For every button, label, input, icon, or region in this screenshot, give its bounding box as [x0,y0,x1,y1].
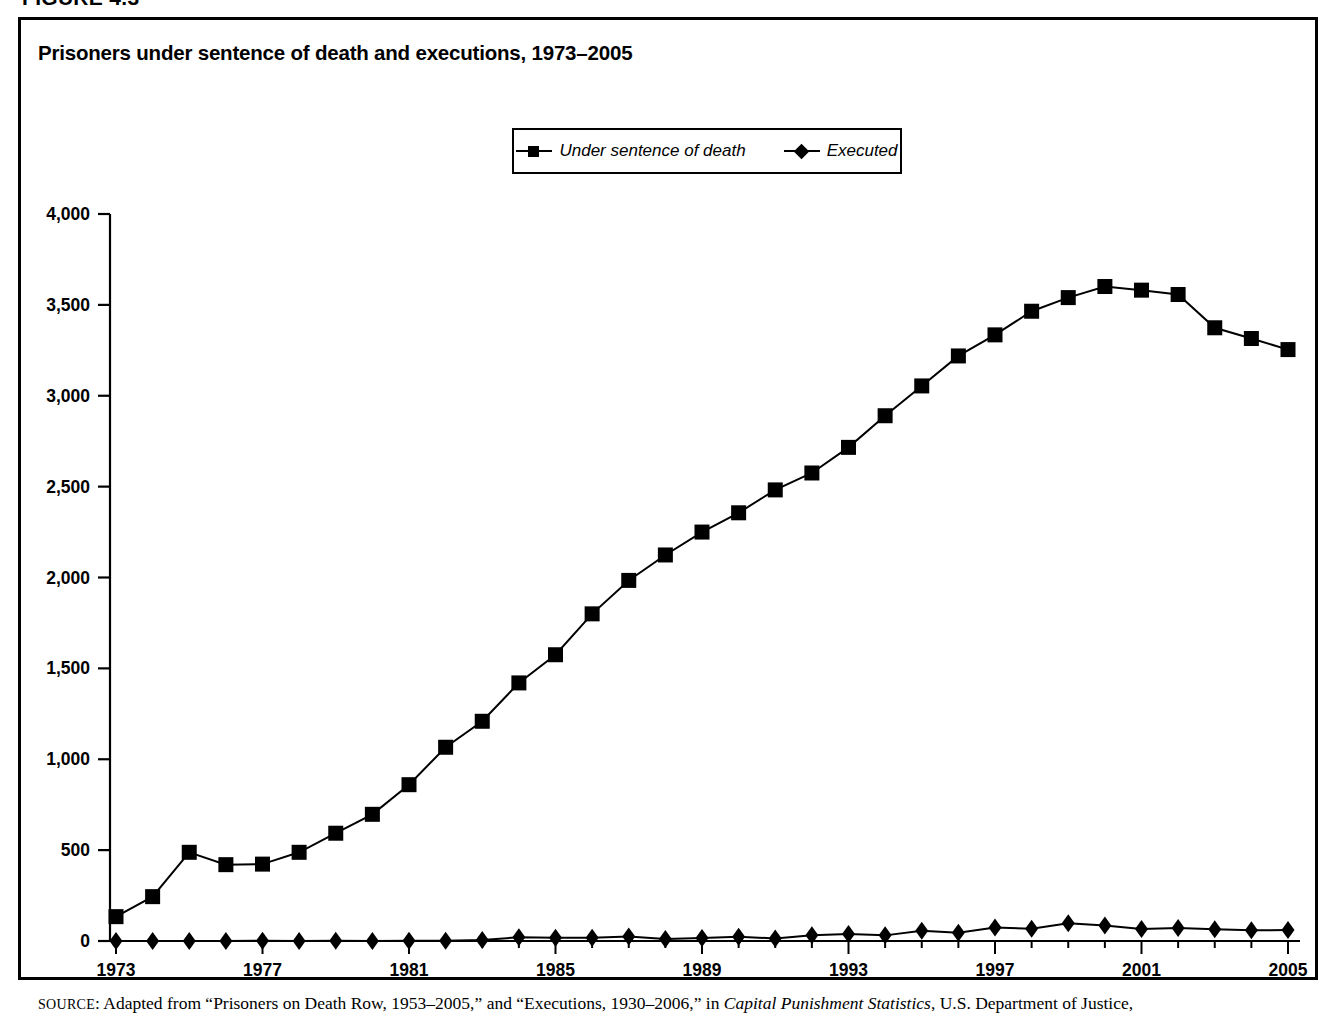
diamond-marker-icon [784,144,820,158]
chart-legend: Under sentence of death Executed [512,128,902,174]
y-axis-tick-label: 4,000 [0,204,90,225]
legend-item-executed[interactable]: Executed [784,141,898,161]
y-axis-tick-label: 2,000 [0,567,90,588]
x-axis-tick-label: 1993 [829,960,868,981]
x-axis-tick-label: 1997 [976,960,1015,981]
source-text-after: , U.S. Department of Justice, [931,993,1133,1013]
legend-label: Under sentence of death [559,141,745,161]
y-axis-tick-label: 500 [0,840,90,861]
figure-number-label: FIGURE 4.3 [22,0,139,10]
x-axis-tick-label: 1989 [683,960,722,981]
legend-item-under-sentence-of-death[interactable]: Under sentence of death [516,141,745,161]
source-publication-title: Capital Punishment Statistics [724,993,931,1013]
y-axis-tick-label: 1,500 [0,658,90,679]
square-marker-icon [516,144,552,158]
x-axis-tick-label: 2001 [1122,960,1161,981]
source-text-before: : Adapted from “Prisoners on Death Row, … [95,993,724,1013]
y-axis-tick-label: 3,500 [0,294,90,315]
source-note: SOURCE: Adapted from “Prisoners on Death… [38,993,1323,1013]
y-axis-tick-label: 3,000 [0,385,90,406]
legend-label: Executed [827,141,898,161]
x-axis-tick-label: 1981 [390,960,429,981]
source-prefix: SOURCE [38,997,95,1012]
x-axis-tick-label: 1977 [243,960,282,981]
x-axis-tick-label: 1973 [97,960,136,981]
y-axis-tick-label: 1,000 [0,749,90,770]
x-axis-tick-label: 1985 [536,960,575,981]
figure-page: FIGURE 4.3 Prisoners under sentence of d… [0,0,1337,1021]
page-title: Prisoners under sentence of death and ex… [38,41,632,65]
y-axis-tick-label: 2,500 [0,476,90,497]
y-axis-tick-label: 0 [0,931,90,952]
x-axis-tick-label: 2005 [1269,960,1308,981]
